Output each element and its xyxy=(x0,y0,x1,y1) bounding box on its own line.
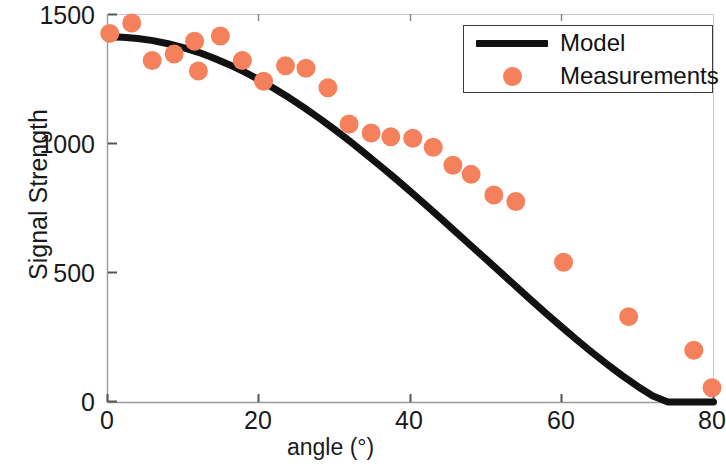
measurement-point xyxy=(619,307,638,326)
measurement-point xyxy=(381,127,400,146)
measurement-point xyxy=(340,114,359,133)
measurement-point xyxy=(702,378,721,397)
measurement-point xyxy=(165,45,184,64)
chart-figure: Signal Strength angle (°) 0 500 1000 150… xyxy=(0,0,726,468)
measurement-point xyxy=(185,32,204,51)
measurement-point xyxy=(554,253,573,272)
measurement-point xyxy=(143,51,162,70)
measurement-point xyxy=(100,24,119,43)
legend-label-model: Model xyxy=(560,31,625,55)
legend-line-swatch-icon xyxy=(464,26,560,60)
measurement-point xyxy=(484,186,503,205)
chart-legend: Model Measurements xyxy=(463,25,713,93)
measurement-point xyxy=(684,341,703,360)
measurement-point xyxy=(362,123,381,142)
measurement-point xyxy=(233,51,252,70)
legend-item-measurements: Measurements xyxy=(464,59,714,93)
legend-label-measurements: Measurements xyxy=(560,64,719,88)
measurement-point xyxy=(276,56,295,75)
measurement-point xyxy=(189,61,208,80)
measurement-point xyxy=(462,165,481,184)
measurement-point xyxy=(403,129,422,148)
legend-dot-swatch-icon xyxy=(464,59,560,93)
measurement-point xyxy=(211,26,230,45)
measurement-point xyxy=(296,59,315,78)
measurement-point xyxy=(424,138,443,157)
legend-item-model: Model xyxy=(464,26,714,60)
measurement-point xyxy=(318,78,337,97)
measurement-point xyxy=(254,72,273,91)
measurement-point xyxy=(506,192,525,211)
measurement-point xyxy=(443,156,462,175)
measurement-point xyxy=(122,14,141,33)
